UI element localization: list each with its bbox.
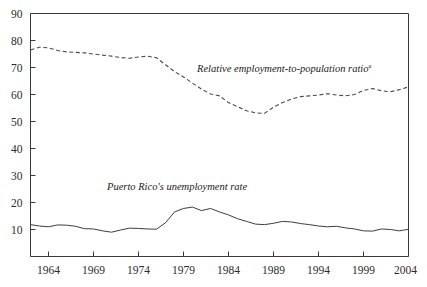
x-axis-labels: 196419691974197919841989199419992004 xyxy=(37,264,417,276)
y-tick-label: 60 xyxy=(11,89,23,101)
x-tick-label: 1979 xyxy=(172,264,195,276)
chart-annotations: Relative employment-to-population ratioa… xyxy=(106,63,371,193)
y-tick-label: 30 xyxy=(11,170,23,182)
y-tick-label: 70 xyxy=(11,62,23,74)
x-tick-label: 1999 xyxy=(352,264,375,276)
y-axis-ticks xyxy=(31,14,36,230)
y-tick-label: 90 xyxy=(11,8,23,20)
x-tick-label: 1969 xyxy=(82,264,105,276)
y-tick-label: 20 xyxy=(11,197,23,209)
y-axis-labels: 102030405060708090 xyxy=(11,8,23,236)
annotation-label: Relative employment-to-population ratioa xyxy=(196,63,371,74)
y-tick-label: 80 xyxy=(11,35,23,47)
employment-unemployment-line-chart: 102030405060708090 196419691974197919841… xyxy=(0,0,427,287)
y-tick-label: 50 xyxy=(11,116,23,128)
annotation-label: Puerto Rico's unemployment rate xyxy=(106,181,248,192)
x-tick-label: 1994 xyxy=(307,264,330,276)
x-tick-label: 2004 xyxy=(394,264,417,276)
chart-container: 102030405060708090 196419691974197919841… xyxy=(0,0,427,287)
x-axis-ticks xyxy=(49,252,409,257)
x-tick-label: 1974 xyxy=(127,264,150,276)
axis-frame xyxy=(31,14,409,257)
series-relative-employment-to-population-ratio xyxy=(31,47,409,113)
series-puerto-rico-unemployment-rate xyxy=(31,207,409,232)
y-tick-label: 40 xyxy=(11,143,23,155)
x-tick-label: 1989 xyxy=(262,264,285,276)
x-tick-label: 1984 xyxy=(217,264,240,276)
x-tick-label: 1964 xyxy=(37,264,60,276)
y-tick-label: 10 xyxy=(11,224,23,236)
